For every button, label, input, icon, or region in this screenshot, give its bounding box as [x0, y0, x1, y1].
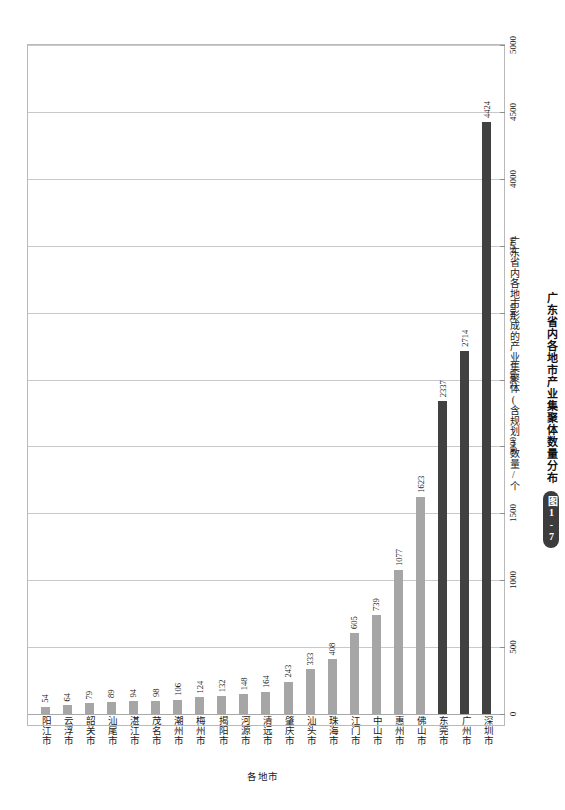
- x-axis-tick-label: 河源市: [239, 716, 249, 746]
- bar[interactable]: [41, 707, 50, 714]
- bar-slot: 2337: [432, 45, 454, 714]
- bar-value-label: 2337: [438, 380, 448, 397]
- figure-number-badge: 图1-7: [543, 491, 559, 548]
- x-axis-tick-label: 深圳市: [482, 716, 492, 746]
- bar[interactable]: [306, 669, 315, 714]
- x-axis-label-slot: 肇庆市: [277, 716, 299, 778]
- bar[interactable]: [195, 697, 204, 714]
- bar[interactable]: [173, 700, 182, 714]
- x-axis-tick-label: 江门市: [350, 716, 360, 746]
- figure-caption: 广东省内各地市产业集聚体数量分布 图1-7: [543, 292, 559, 548]
- x-axis-tick-label: 珠海市: [328, 716, 338, 746]
- bar-slot: 243: [277, 45, 299, 714]
- x-axis-label-slot: 汕尾市: [100, 716, 122, 778]
- bar-value-label: 4424: [482, 101, 492, 118]
- bar-slot: 132: [211, 45, 233, 714]
- x-axis-label-slot: 佛山市: [410, 716, 432, 778]
- bar-slot: 739: [365, 45, 387, 714]
- bar-slot: 4424: [476, 45, 498, 714]
- bar-value-label: 98: [151, 688, 161, 697]
- y-axis-tick-mark: [500, 246, 505, 247]
- y-axis-tick-mark: [500, 513, 505, 514]
- x-axis-title: 各地市: [247, 769, 279, 783]
- y-axis-tick-mark: [500, 313, 505, 314]
- bar-value-label: 605: [349, 616, 359, 629]
- bar[interactable]: [328, 659, 337, 714]
- x-axis-label-slot: 惠州市: [388, 716, 410, 778]
- x-axis-label-slot: 广州市: [454, 716, 476, 778]
- x-axis-tick-label: 云浮市: [62, 716, 72, 746]
- bar[interactable]: [261, 692, 270, 714]
- x-axis-label-slot: 汕头市: [299, 716, 321, 778]
- bar-slot: 164: [255, 45, 277, 714]
- bar[interactable]: [416, 497, 425, 714]
- x-axis-tick-label: 中山市: [372, 716, 382, 746]
- bar[interactable]: [438, 401, 447, 714]
- x-axis-label-slot: 中山市: [365, 716, 387, 778]
- bar-value-label: 148: [239, 677, 249, 690]
- bar[interactable]: [284, 682, 293, 715]
- bar-slot: 98: [144, 45, 166, 714]
- bar-slot: 106: [167, 45, 189, 714]
- x-axis-tick-label: 茂名市: [151, 716, 161, 746]
- bar[interactable]: [460, 351, 469, 714]
- x-axis-tick-label: 湛江市: [129, 716, 139, 746]
- x-axis-tick-label: 汕尾市: [107, 716, 117, 746]
- bar-value-label: 132: [217, 680, 227, 693]
- bar-value-label: 54: [40, 694, 50, 703]
- bar-slot: 408: [321, 45, 343, 714]
- bar-value-label: 106: [173, 683, 183, 696]
- x-axis-label-slot: 东莞市: [432, 716, 454, 778]
- bar-slot: 333: [299, 45, 321, 714]
- x-axis-label-slot: 梅州市: [189, 716, 211, 778]
- figure-caption-text: 广东省内各地市产业集聚体数量分布: [546, 292, 557, 484]
- y-axis-tick-mark: [500, 714, 505, 715]
- bar[interactable]: [350, 633, 359, 714]
- bar-slot: 54: [34, 45, 56, 714]
- bar-value-label: 89: [106, 690, 116, 699]
- x-axis-tick-label: 东莞市: [438, 716, 448, 746]
- x-axis-tick-label: 肇庆市: [283, 716, 293, 746]
- x-axis-label-slot: 茂名市: [144, 716, 166, 778]
- bar-value-label: 739: [371, 598, 381, 611]
- bar-value-label: 1077: [394, 549, 404, 566]
- bar-slot: 124: [189, 45, 211, 714]
- y-axis-tick-mark: [500, 45, 505, 46]
- bar[interactable]: [129, 701, 138, 714]
- bar-value-label: 64: [62, 693, 72, 702]
- x-axis-label-slot: 揭阳市: [211, 716, 233, 778]
- bar[interactable]: [217, 696, 226, 714]
- x-axis-label-slot: 江门市: [343, 716, 365, 778]
- x-axis-label-slot: 深圳市: [476, 716, 498, 778]
- y-axis-tick-mark: [500, 380, 505, 381]
- y-axis-tick-mark: [500, 647, 505, 648]
- bar-value-label: 124: [195, 681, 205, 694]
- bar-slot: 79: [78, 45, 100, 714]
- bar[interactable]: [394, 570, 403, 714]
- bar[interactable]: [239, 694, 248, 714]
- plot-area: 5464798994981061241321481642433334086057…: [28, 45, 504, 714]
- bar[interactable]: [107, 702, 116, 714]
- bar-slot: 1623: [410, 45, 432, 714]
- bar[interactable]: [482, 122, 491, 714]
- figure-container: 5464798994981061241321481642433334086057…: [0, 0, 565, 810]
- bar-value-label: 2714: [460, 330, 470, 347]
- x-axis-tick-label: 阳江市: [40, 716, 50, 746]
- bar[interactable]: [63, 705, 72, 714]
- y-axis-tick-mark: [500, 580, 505, 581]
- bar[interactable]: [151, 701, 160, 714]
- x-axis-tick-label: 佛山市: [416, 716, 426, 746]
- bar[interactable]: [85, 703, 94, 714]
- bar-slot: 89: [100, 45, 122, 714]
- bar-slot: 2714: [454, 45, 476, 714]
- axis-baseline: [28, 714, 504, 715]
- x-axis-tick-label: 广州市: [460, 716, 470, 746]
- x-axis-tick-label: 韶关市: [84, 716, 94, 746]
- x-axis-label-slot: 云浮市: [56, 716, 78, 778]
- bar[interactable]: [372, 615, 381, 714]
- x-axis-tick-label: 揭阳市: [217, 716, 227, 746]
- bar-slot: 605: [343, 45, 365, 714]
- bar-slot: 148: [233, 45, 255, 714]
- x-axis-tick-label: 汕头市: [305, 716, 315, 746]
- x-axis-tick-label: 潮州市: [173, 716, 183, 746]
